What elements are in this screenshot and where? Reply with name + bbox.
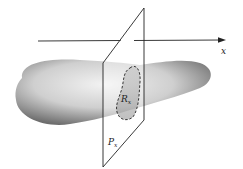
x-axis-left (38, 41, 121, 42)
x-axis-right (134, 40, 222, 41)
axis-label-x: x (221, 46, 226, 56)
x-axis-arrowhead (218, 37, 226, 43)
cross-section-diagram: x Rx Px (0, 0, 243, 169)
